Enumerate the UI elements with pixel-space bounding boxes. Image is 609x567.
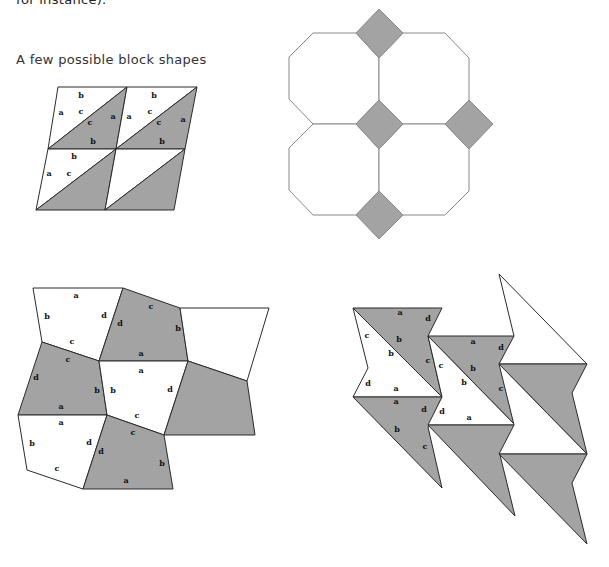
edge-label: a [123,475,128,485]
edge-label: a [393,383,398,393]
edge-label: d [421,404,427,414]
edge-label: a [138,365,143,375]
edge-label: c [70,336,75,346]
edge-label: a [58,107,63,117]
edge-label: a [138,348,143,358]
edge-label: c [365,330,370,340]
edge-label: a [110,111,115,121]
edge-label: b [44,311,50,321]
edge-label: d [86,437,92,447]
edge-label: c [131,427,136,437]
edge-label: c [135,410,140,420]
edge-label: b [159,136,165,146]
edge-label: b [470,363,476,373]
edge-label: a [58,401,63,411]
edge-label: b [110,385,116,395]
edge-label: b [394,424,400,434]
edge-label: c [55,463,60,473]
edge-label: a [397,307,402,317]
figure-quadrilaterals [18,288,269,489]
block-shapes-canvas: baccabbaccabbac abdccdbacdbaabdcabdccdba [0,0,609,567]
edge-label: d [439,406,445,416]
edge-label: a [126,111,131,121]
edge-label: c [88,117,93,127]
edge-label: b [78,90,84,100]
edge-label: b [151,90,157,100]
edge-label: a [466,412,471,422]
edge-label: d [425,313,431,323]
edge-label: a [393,396,398,406]
edge-label: b [71,151,77,161]
figure-octagon-square [289,9,493,239]
figure-parallelogram-triangles [36,87,197,210]
edge-label: d [33,372,39,382]
edge-label: a [73,290,78,300]
edge-label: a [46,168,51,178]
edge-label: d [365,378,371,388]
edge-label: b [159,458,165,468]
edge-label: b [388,348,394,358]
edge-label: a [180,114,185,124]
edge-label: d [101,310,107,320]
edge-label: b [29,438,35,448]
edge-label: a [470,336,475,346]
edge-label: c [79,106,84,116]
edge-label: c [157,117,162,127]
edge-label: b [461,377,467,387]
edge-label: b [90,136,96,146]
edge-label: c [499,383,504,393]
edge-label: c [66,354,71,364]
edge-label: d [167,384,173,394]
edge-label: a [58,417,63,427]
edge-label: b [94,385,100,395]
edge-label: c [67,168,72,178]
edge-label: c [148,106,153,116]
edge-label: c [423,441,428,451]
figure-lightning-bolts [353,274,587,544]
edge-label: c [439,360,444,370]
edge-label: b [175,323,181,333]
edge-label: d [117,318,123,328]
edge-label: d [98,446,104,456]
edge-label: d [498,342,504,352]
edge-label: c [426,355,431,365]
edge-label: b [396,334,402,344]
edge-label: c [149,301,154,311]
